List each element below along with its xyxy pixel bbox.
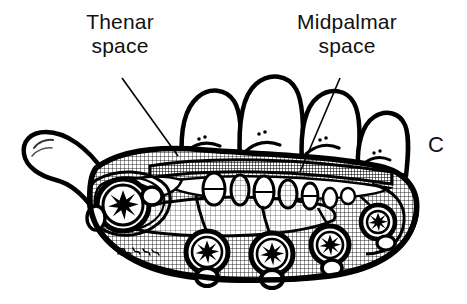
midpalmar-label-line2: space xyxy=(284,34,410,58)
thenar-leader-line xyxy=(122,78,178,156)
panel-letter: C xyxy=(428,132,444,158)
thenar-label-line1: Thenar xyxy=(86,10,154,33)
midpalmar-label-line1: Midpalmar xyxy=(297,10,397,33)
hand-cross-section-figure: Thenar space Midpalmar space C xyxy=(0,0,467,304)
thenar-label-line2: space xyxy=(60,34,180,58)
thenar-space-label: Thenar space xyxy=(60,10,180,59)
palm-cross-section xyxy=(87,149,417,288)
middle-finger xyxy=(240,77,304,160)
midpalmar-space-label: Midpalmar space xyxy=(284,10,410,59)
